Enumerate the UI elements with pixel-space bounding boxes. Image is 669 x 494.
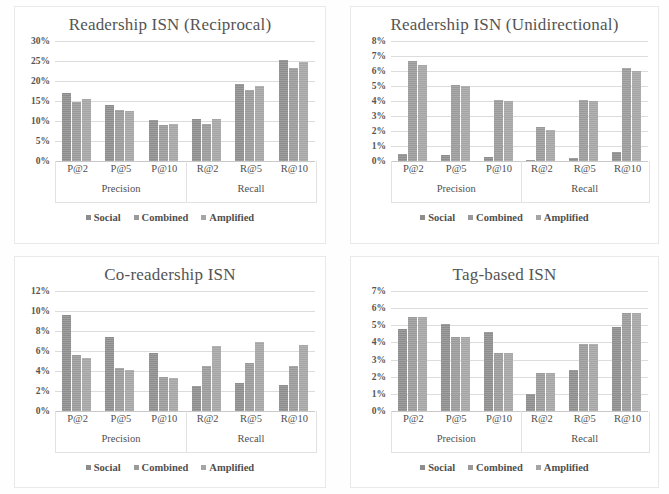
y-axis-tick-label: 25% bbox=[31, 56, 50, 66]
y-axis: 0%1%2%3%4%5%6%7% bbox=[355, 291, 389, 411]
legend-item-social[interactable]: Social bbox=[86, 462, 121, 473]
legend-swatch-icon bbox=[134, 465, 139, 470]
legend-item-amplified[interactable]: Amplified bbox=[201, 462, 254, 473]
legend-label: Social bbox=[94, 212, 121, 223]
plot-canvas bbox=[55, 41, 315, 161]
bar-amplified-Pat5 bbox=[461, 86, 470, 161]
x-axis: P@2P@5P@10R@2R@5R@10PrecisionRecall bbox=[55, 411, 317, 453]
bar-social-Pat2 bbox=[398, 154, 407, 162]
plot-canvas bbox=[391, 41, 648, 161]
plot-area: 0%1%2%3%4%5%6%7%8% bbox=[355, 41, 650, 161]
legend-label: Amplified bbox=[544, 462, 589, 473]
bar-layer bbox=[55, 291, 315, 411]
x-axis-tick-label: R@10 bbox=[273, 163, 316, 174]
chart-legend: SocialCombinedAmplified bbox=[15, 462, 325, 473]
bar-amplified-Pat10 bbox=[504, 353, 513, 411]
y-axis-tick-label: 5% bbox=[36, 136, 50, 146]
x-axis-category-row: P@2P@5P@10R@2R@5R@10 bbox=[392, 413, 649, 424]
x-axis-tick-label: P@2 bbox=[392, 413, 435, 424]
x-axis-category-row: P@2P@5P@10R@2R@5R@10 bbox=[56, 163, 316, 174]
bar-amplified-Pat2 bbox=[418, 65, 427, 161]
bar-social-Rat2 bbox=[526, 394, 535, 411]
bar-group-Rat5 bbox=[562, 291, 605, 411]
plot-area: 0%2%4%6%8%10%12% bbox=[19, 291, 317, 411]
bar-group-Pat2 bbox=[391, 291, 434, 411]
plot-canvas bbox=[391, 291, 648, 411]
legend-swatch-icon bbox=[468, 465, 473, 470]
bar-group-Rat2 bbox=[519, 41, 562, 161]
chart-frame: Tag-based ISN0%1%2%3%4%5%6%7%P@2P@5P@10R… bbox=[350, 256, 659, 488]
legend-item-social[interactable]: Social bbox=[420, 462, 455, 473]
bar-combined-Rat10 bbox=[622, 313, 631, 411]
chart-frame: Readership ISN (Unidirectional)0%1%2%3%4… bbox=[350, 6, 659, 244]
x-axis: P@2P@5P@10R@2R@5R@10PrecisionRecall bbox=[55, 161, 317, 203]
y-axis-tick-label: 30% bbox=[31, 36, 50, 46]
bar-amplified-Pat2 bbox=[82, 358, 91, 411]
y-axis-tick-label: 20% bbox=[31, 76, 50, 86]
bar-social-Rat10 bbox=[279, 385, 288, 411]
y-axis-tick-label: 10% bbox=[31, 116, 50, 126]
y-axis-tick-label: 12% bbox=[31, 286, 50, 296]
bar-group-Pat10 bbox=[477, 291, 520, 411]
legend-label: Combined bbox=[142, 212, 189, 223]
legend-item-amplified[interactable]: Amplified bbox=[201, 212, 254, 223]
x-axis-group-label: Recall bbox=[521, 183, 650, 194]
plot-canvas bbox=[55, 291, 315, 411]
x-axis-tick-label: P@5 bbox=[435, 163, 478, 174]
y-axis-tick-label: 6% bbox=[36, 346, 50, 356]
legend-item-combined[interactable]: Combined bbox=[468, 462, 523, 473]
bar-amplified-Rat5 bbox=[255, 86, 264, 161]
y-axis-tick-label: 3% bbox=[372, 355, 386, 365]
bar-social-Pat10 bbox=[484, 332, 493, 411]
y-axis-tick-label: 0% bbox=[36, 406, 50, 416]
legend-swatch-icon bbox=[201, 215, 206, 220]
x-axis-tick-label: P@5 bbox=[435, 413, 478, 424]
y-axis-tick-label: 0% bbox=[36, 156, 50, 166]
bar-group-Rat2 bbox=[185, 41, 228, 161]
legend-item-social[interactable]: Social bbox=[86, 212, 121, 223]
legend-item-combined[interactable]: Combined bbox=[134, 212, 189, 223]
bar-amplified-Rat10 bbox=[632, 313, 641, 411]
chart-legend: SocialCombinedAmplified bbox=[351, 462, 658, 473]
y-axis-tick-label: 5% bbox=[372, 81, 386, 91]
legend-item-amplified[interactable]: Amplified bbox=[536, 462, 589, 473]
y-axis-tick-label: 5% bbox=[372, 320, 386, 330]
x-axis-group-label: Recall bbox=[521, 433, 650, 444]
legend-swatch-icon bbox=[536, 465, 541, 470]
bar-combined-Pat2 bbox=[408, 61, 417, 162]
x-axis-tick-label: R@10 bbox=[273, 413, 316, 424]
y-axis: 0%5%10%15%20%25%30% bbox=[19, 41, 53, 161]
x-axis-tick-label: R@10 bbox=[606, 413, 649, 424]
bar-social-Pat2 bbox=[62, 93, 71, 161]
bar-social-Rat5 bbox=[235, 84, 244, 161]
bar-social-Rat2 bbox=[192, 386, 201, 411]
bar-combined-Rat2 bbox=[536, 373, 545, 411]
legend-label: Combined bbox=[476, 462, 523, 473]
bar-social-Rat5 bbox=[569, 370, 578, 411]
bar-combined-Pat2 bbox=[72, 355, 81, 411]
legend-item-amplified[interactable]: Amplified bbox=[536, 212, 589, 223]
bar-group-Pat2 bbox=[55, 291, 98, 411]
y-axis-tick-label: 2% bbox=[372, 126, 386, 136]
legend-label: Social bbox=[428, 212, 455, 223]
bar-amplified-Rat2 bbox=[212, 119, 221, 161]
legend-item-combined[interactable]: Combined bbox=[134, 462, 189, 473]
x-axis: P@2P@5P@10R@2R@5R@10PrecisionRecall bbox=[391, 161, 650, 203]
bar-amplified-Rat10 bbox=[632, 71, 641, 161]
y-axis-tick-label: 15% bbox=[31, 96, 50, 106]
legend-label: Social bbox=[94, 462, 121, 473]
bar-group-Pat2 bbox=[391, 41, 434, 161]
legend-item-social[interactable]: Social bbox=[420, 212, 455, 223]
bar-amplified-Pat10 bbox=[169, 124, 178, 161]
bar-group-Pat10 bbox=[477, 41, 520, 161]
bar-amplified-Pat2 bbox=[418, 317, 427, 411]
legend-item-combined[interactable]: Combined bbox=[468, 212, 523, 223]
bar-layer bbox=[391, 41, 648, 161]
bar-social-Rat5 bbox=[235, 383, 244, 411]
bar-combined-Rat2 bbox=[202, 124, 211, 161]
bar-combined-Rat10 bbox=[622, 68, 631, 161]
x-axis-category-row: P@2P@5P@10R@2R@5R@10 bbox=[392, 163, 649, 174]
bar-amplified-Pat5 bbox=[461, 337, 470, 411]
legend-swatch-icon bbox=[468, 215, 473, 220]
x-axis-tick-label: P@2 bbox=[56, 163, 99, 174]
